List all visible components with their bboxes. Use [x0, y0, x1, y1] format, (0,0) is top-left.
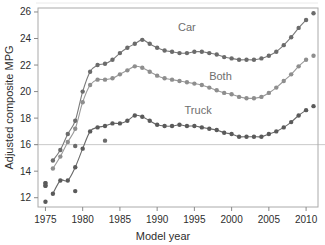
- datapoint-car-1983: [103, 62, 107, 66]
- datapoint-car-1995: [192, 50, 196, 54]
- datapoint-both-1988: [140, 66, 144, 70]
- scatterpoint-truck-1979-3: [73, 189, 77, 193]
- x-tick-label-2010: 2010: [295, 214, 318, 225]
- y-tick-label-16: 16: [20, 139, 32, 150]
- datapoint-truck-2010: [304, 108, 308, 112]
- chart-figure: 1214161820222426197519801985199019952000…: [0, 0, 325, 245]
- y-tick-label-14: 14: [20, 166, 32, 177]
- datapoint-both-1978: [66, 140, 70, 144]
- datapoint-both-1981: [88, 83, 92, 87]
- datapoint-car-2001: [237, 58, 241, 62]
- series-label-car: Car: [178, 21, 196, 33]
- datapoint-car-1985: [118, 51, 122, 55]
- datapoint-both-1999: [222, 91, 226, 95]
- datapoint-car-2004: [259, 56, 263, 60]
- datapoint-truck-1986: [125, 119, 129, 123]
- datapoint-both-1991: [162, 76, 166, 80]
- datapoint-truck-1987: [133, 113, 137, 117]
- datapoint-both-2005: [267, 91, 271, 95]
- datapoint-car-1976: [51, 158, 55, 162]
- mpg-trend-chart: 1214161820222426197519801985199019952000…: [0, 0, 325, 245]
- datapoint-car-1980: [80, 89, 84, 93]
- x-tick-label-2000: 2000: [220, 214, 243, 225]
- datapoint-both-2003: [252, 96, 256, 100]
- datapoint-truck-1995: [192, 124, 196, 128]
- datapoint-truck-1993: [177, 123, 181, 127]
- datapoint-truck-1981: [88, 129, 92, 133]
- datapoint-both-1996: [200, 83, 204, 87]
- datapoint-car-2009: [296, 26, 300, 30]
- datapoint-truck-1990: [155, 123, 159, 127]
- datapoint-truck-2005: [267, 132, 271, 136]
- datapoint-both-1997: [207, 85, 211, 89]
- datapoint-truck-2006: [274, 129, 278, 133]
- y-tick-label-18: 18: [20, 113, 32, 124]
- datapoint-car-1994: [185, 51, 189, 55]
- datapoint-truck-1984: [110, 121, 114, 125]
- datapoint-truck-1979: [73, 165, 77, 169]
- datapoint-car-1998: [215, 52, 219, 56]
- datapoint-car-1990: [155, 46, 159, 50]
- datapoint-truck-2011: [311, 104, 315, 108]
- datapoint-truck-2002: [244, 134, 248, 138]
- series-truck: [43, 104, 315, 204]
- curve-both: [53, 60, 306, 169]
- datapoint-both-2009: [296, 64, 300, 68]
- datapoint-both-1982: [95, 77, 99, 81]
- datapoint-car-2006: [274, 50, 278, 54]
- datapoint-truck-1999: [222, 131, 226, 135]
- datapoint-car-2005: [267, 54, 271, 58]
- datapoint-both-1987: [133, 64, 137, 68]
- y-tick-label-22: 22: [20, 60, 32, 71]
- datapoint-car-1986: [125, 46, 129, 50]
- datapoint-car-1989: [148, 42, 152, 46]
- datapoint-both-2010: [304, 58, 308, 62]
- datapoint-truck-1982: [95, 125, 99, 129]
- datapoint-both-2011: [311, 54, 315, 58]
- datapoint-car-1982: [95, 63, 99, 67]
- datapoint-truck-1988: [140, 115, 144, 119]
- datapoint-truck-1985: [118, 121, 122, 125]
- datapoint-truck-2000: [229, 132, 233, 136]
- datapoint-car-1984: [110, 58, 114, 62]
- datapoint-truck-2001: [237, 134, 241, 138]
- datapoint-both-1983: [103, 77, 107, 81]
- datapoint-both-1980: [80, 100, 84, 104]
- x-tick-label-2005: 2005: [258, 214, 281, 225]
- datapoint-truck-1994: [185, 124, 189, 128]
- datapoint-car-1978: [66, 132, 70, 136]
- datapoint-both-2008: [289, 72, 293, 76]
- scatterpoint-car-1983-3: [103, 138, 107, 142]
- datapoint-both-1984: [110, 76, 114, 80]
- datapoint-car-2000: [229, 56, 233, 60]
- datapoint-car-1997: [207, 51, 211, 55]
- x-tick-label-1990: 1990: [146, 214, 169, 225]
- datapoint-car-1992: [170, 50, 174, 54]
- datapoint-truck-1983: [103, 124, 107, 128]
- scatterpoint-truck-1975-1: [43, 184, 47, 188]
- x-tick-label-1980: 1980: [72, 214, 95, 225]
- y-tick-label-12: 12: [20, 192, 32, 203]
- y-axis-title: Adjusted composite MPG: [3, 45, 15, 169]
- datapoint-car-1977: [58, 148, 62, 152]
- datapoint-truck-1992: [170, 124, 174, 128]
- datapoint-both-1998: [215, 88, 219, 92]
- datapoint-car-1996: [200, 50, 204, 54]
- x-axis-title: Model year: [136, 230, 191, 242]
- x-tick-label-1975: 1975: [34, 214, 57, 225]
- datapoint-car-1988: [140, 38, 144, 42]
- datapoint-both-1995: [192, 81, 196, 85]
- datapoint-truck-1998: [215, 128, 219, 132]
- datapoint-car-2007: [282, 43, 286, 47]
- datapoint-both-1992: [170, 77, 174, 81]
- curve-car: [53, 20, 306, 161]
- series-label-both: Both: [209, 70, 232, 82]
- datapoint-both-1993: [177, 79, 181, 83]
- datapoint-car-1991: [162, 48, 166, 52]
- datapoint-truck-2009: [296, 113, 300, 117]
- datapoint-both-1989: [148, 69, 152, 73]
- datapoint-both-1985: [118, 72, 122, 76]
- datapoint-truck-1991: [162, 124, 166, 128]
- datapoint-both-2001: [237, 95, 241, 99]
- datapoint-truck-1977: [58, 178, 62, 182]
